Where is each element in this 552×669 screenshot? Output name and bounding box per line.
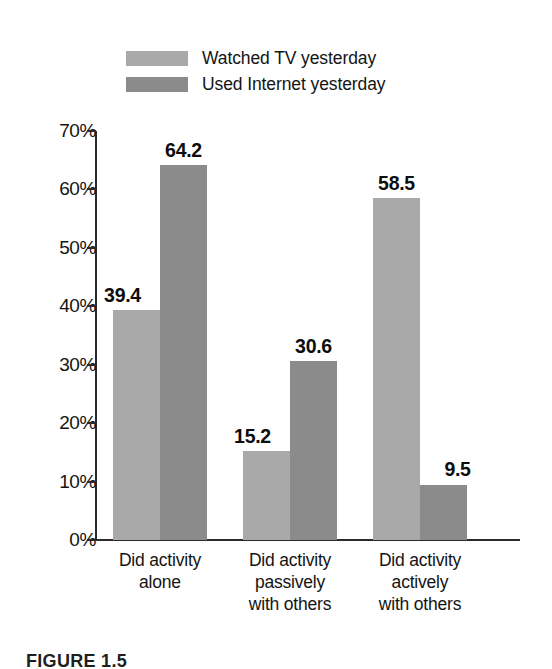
bar bbox=[113, 310, 160, 540]
figure-caption: FIGURE 1.5 bbox=[26, 651, 127, 669]
y-axis-tick-mark bbox=[87, 247, 96, 249]
bar bbox=[160, 165, 207, 540]
bar-value-label: 30.6 bbox=[295, 336, 332, 356]
y-axis-tick-mark bbox=[87, 364, 96, 366]
bar bbox=[373, 198, 420, 540]
y-axis-tick-mark bbox=[87, 539, 96, 541]
bar-value-label: 58.5 bbox=[378, 173, 415, 193]
category-label-line: with others bbox=[358, 593, 482, 615]
x-axis-category-label: Did activityalone bbox=[98, 549, 222, 593]
bar-value-label: 64.2 bbox=[165, 140, 202, 160]
y-axis-tick-mark bbox=[87, 130, 96, 132]
x-axis-category-label: Did activityactivelywith others bbox=[358, 549, 482, 615]
bar-chart: 70%60%50%40%30%20%10%0% Did activityalon… bbox=[0, 0, 552, 669]
category-label-line: alone bbox=[98, 571, 222, 593]
category-label-line: Did activity bbox=[228, 549, 352, 571]
y-axis-tick-mark bbox=[87, 305, 96, 307]
bar bbox=[243, 451, 290, 540]
y-axis-tick-mark bbox=[87, 481, 96, 483]
category-label-line: with others bbox=[228, 593, 352, 615]
category-label-line: passively bbox=[228, 571, 352, 593]
bar-value-label: 39.4 bbox=[104, 285, 141, 305]
category-label-line: Did activity bbox=[98, 549, 222, 571]
category-label-line: actively bbox=[358, 571, 482, 593]
bar-value-label: 9.5 bbox=[444, 459, 470, 479]
bar-value-label: 15.2 bbox=[234, 426, 271, 446]
bar bbox=[290, 361, 337, 540]
y-axis-tick-mark bbox=[87, 188, 96, 190]
bar bbox=[420, 485, 467, 541]
x-axis-category-label: Did activitypassivelywith others bbox=[228, 549, 352, 615]
y-axis-tick-mark bbox=[87, 422, 96, 424]
bar-group bbox=[113, 131, 207, 540]
category-label-line: Did activity bbox=[358, 549, 482, 571]
